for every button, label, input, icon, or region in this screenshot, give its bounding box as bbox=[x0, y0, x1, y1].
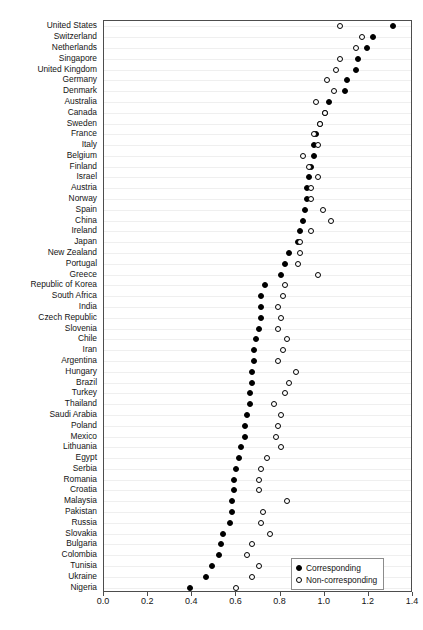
data-point-open bbox=[286, 380, 292, 386]
data-point-open bbox=[315, 272, 321, 278]
gridline bbox=[104, 350, 411, 351]
x-axis-tick-label: 0.8 bbox=[273, 597, 286, 606]
data-point-filled bbox=[229, 509, 235, 515]
category-label: Saudi Arabia bbox=[50, 410, 98, 418]
gridline bbox=[104, 210, 411, 211]
category-label: United Kingdom bbox=[37, 64, 97, 72]
data-point-filled bbox=[249, 380, 255, 386]
category-label: Lithuania bbox=[63, 442, 97, 450]
gridline bbox=[104, 437, 411, 438]
data-point-open bbox=[249, 574, 255, 580]
data-point-open bbox=[280, 347, 286, 353]
x-axis-tick-label: 1.4 bbox=[406, 597, 419, 606]
data-point-open bbox=[311, 131, 317, 137]
category-label: Israel bbox=[77, 172, 97, 180]
x-axis-tick-label: 0.2 bbox=[141, 597, 154, 606]
data-point-open bbox=[359, 34, 365, 40]
data-point-open bbox=[278, 412, 284, 418]
data-point-filled bbox=[209, 563, 215, 569]
data-point-open bbox=[353, 45, 359, 51]
data-point-filled bbox=[256, 326, 262, 332]
gridline bbox=[104, 70, 411, 71]
data-point-open bbox=[308, 185, 314, 191]
x-axis-tick-label: 0.0 bbox=[97, 597, 110, 606]
gridline bbox=[104, 404, 411, 405]
category-label: Australia bbox=[64, 97, 97, 105]
category-label: Netherlands bbox=[52, 43, 97, 51]
category-label: Romania bbox=[63, 474, 97, 482]
category-label: Singapore bbox=[59, 54, 97, 62]
x-axis-tick-label: 1.2 bbox=[362, 597, 375, 606]
data-point-open bbox=[256, 477, 262, 483]
data-point-open bbox=[233, 585, 239, 591]
category-label: Austria bbox=[71, 183, 97, 191]
category-label: Finland bbox=[70, 161, 97, 169]
category-label: Tunisia bbox=[70, 561, 97, 569]
filled-circle-icon bbox=[296, 565, 302, 571]
data-point-open bbox=[331, 88, 337, 94]
data-point-filled bbox=[390, 23, 396, 29]
data-point-filled bbox=[242, 423, 248, 429]
data-point-filled bbox=[229, 498, 235, 504]
category-label: India bbox=[79, 302, 97, 310]
gridline bbox=[104, 134, 411, 135]
category-label: Portugal bbox=[66, 259, 97, 267]
data-point-open bbox=[333, 67, 339, 73]
category-label: Iran bbox=[83, 345, 97, 353]
data-point-filled bbox=[247, 390, 253, 396]
data-point-open bbox=[284, 498, 290, 504]
gridline bbox=[104, 512, 411, 513]
data-point-filled bbox=[238, 444, 244, 450]
gridline bbox=[104, 221, 411, 222]
category-label: Malaysia bbox=[64, 496, 97, 504]
category-label: Norway bbox=[69, 194, 97, 202]
plot-area bbox=[103, 20, 412, 592]
data-point-open bbox=[297, 239, 303, 245]
data-point-filled bbox=[278, 272, 284, 278]
data-point-filled bbox=[203, 574, 209, 580]
chart-legend: Corresponding Non-corresponding bbox=[291, 558, 384, 590]
legend-item-non-corresponding: Non-corresponding bbox=[296, 574, 377, 586]
data-point-open bbox=[315, 174, 321, 180]
data-point-filled bbox=[247, 401, 253, 407]
data-point-open bbox=[306, 164, 312, 170]
category-label: Canada bbox=[68, 108, 97, 116]
data-point-filled bbox=[231, 477, 237, 483]
category-label: Croatia bbox=[70, 485, 97, 493]
category-label: Slovakia bbox=[65, 528, 97, 536]
gridline bbox=[104, 383, 411, 384]
data-point-open bbox=[275, 358, 281, 364]
category-label: Ireland bbox=[71, 226, 97, 234]
category-label: Mexico bbox=[70, 431, 97, 439]
data-point-filled bbox=[258, 293, 264, 299]
data-point-open bbox=[280, 293, 286, 299]
data-point-open bbox=[275, 423, 281, 429]
data-point-open bbox=[244, 552, 250, 558]
data-point-filled bbox=[258, 315, 264, 321]
data-point-filled bbox=[244, 412, 250, 418]
category-label: Japan bbox=[74, 237, 97, 245]
data-point-filled bbox=[342, 88, 348, 94]
data-point-filled bbox=[297, 228, 303, 234]
category-label: Switzerland bbox=[54, 32, 97, 40]
data-point-open bbox=[249, 541, 255, 547]
data-point-filled bbox=[306, 174, 312, 180]
category-label: Czech Republic bbox=[38, 313, 97, 321]
data-point-filled bbox=[233, 466, 239, 472]
gridline bbox=[104, 393, 411, 394]
data-point-filled bbox=[187, 585, 193, 591]
category-label: Italy bbox=[82, 140, 97, 148]
gridline bbox=[104, 199, 411, 200]
category-label: Turkey bbox=[72, 388, 97, 396]
data-point-open bbox=[328, 218, 334, 224]
category-label: Chile bbox=[78, 334, 97, 342]
data-point-open bbox=[256, 563, 262, 569]
data-point-filled bbox=[236, 455, 242, 461]
data-point-open bbox=[317, 121, 323, 127]
data-point-open bbox=[256, 487, 262, 493]
data-point-filled bbox=[353, 67, 359, 73]
data-point-open bbox=[282, 282, 288, 288]
data-point-open bbox=[267, 531, 273, 537]
gridline bbox=[104, 458, 411, 459]
gridline bbox=[104, 167, 411, 168]
